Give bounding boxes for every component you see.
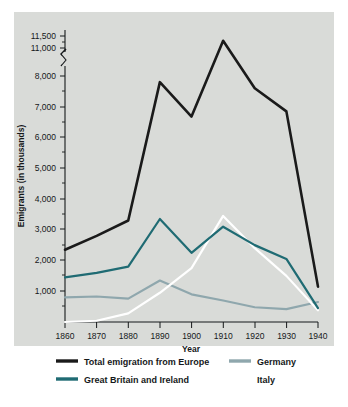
y-tick-label-5000: 5,000 xyxy=(35,163,57,173)
y-axis-ticks: 11,500 11,000 8,000 7,000 6,000 5,000 4,… xyxy=(31,31,65,296)
data-series-layer xyxy=(65,41,318,322)
x-tick-label-1880: 1880 xyxy=(119,331,138,341)
legend-label-total-emigration: Total emigration from Europe xyxy=(84,357,209,367)
chart-legend: Total emigration from Europe Great Brita… xyxy=(14,352,334,396)
legend-label-germany: Germany xyxy=(257,357,296,367)
y-tick-label-6000: 6,000 xyxy=(35,132,57,142)
x-tick-label-1890: 1890 xyxy=(151,331,170,341)
x-tick-label-1910: 1910 xyxy=(214,331,233,341)
x-tick-label-1930: 1930 xyxy=(277,331,296,341)
legend-label-great-britain-and-ireland: Great Britain and Ireland xyxy=(84,375,189,385)
x-axis-ticks: 1860 1870 1880 1890 1900 1910 1920 1930 … xyxy=(56,322,328,341)
chart-plot: 11,500 11,000 8,000 7,000 6,000 5,000 4,… xyxy=(0,0,348,407)
y-tick-label-8000: 8,000 xyxy=(35,71,57,81)
y-tick-label-1000: 1,000 xyxy=(35,286,57,296)
x-tick-label-1940: 1940 xyxy=(309,331,328,341)
y-tick-label-11500: 11,500 xyxy=(31,31,57,41)
x-tick-label-1920: 1920 xyxy=(246,331,265,341)
chart-figure: 11,500 11,000 8,000 7,000 6,000 5,000 4,… xyxy=(0,0,348,407)
y-tick-label-11000: 11,000 xyxy=(31,43,57,53)
y-tick-label-4000: 4,000 xyxy=(35,194,57,204)
x-tick-label-1860: 1860 xyxy=(56,331,75,341)
y-axis-title: Emigrants (in thousands) xyxy=(16,125,26,228)
x-tick-label-1870: 1870 xyxy=(87,331,106,341)
legend-label-italy: Italy xyxy=(257,375,275,385)
y-tick-label-7000: 7,000 xyxy=(35,102,57,112)
series-line-total-emigration-from-europe xyxy=(65,41,318,287)
series-line-germany xyxy=(65,280,318,309)
y-tick-label-3000: 3,000 xyxy=(35,224,57,234)
x-tick-label-1900: 1900 xyxy=(182,331,201,341)
axis-lines xyxy=(65,30,318,322)
y-tick-label-2000: 2,000 xyxy=(35,255,57,265)
